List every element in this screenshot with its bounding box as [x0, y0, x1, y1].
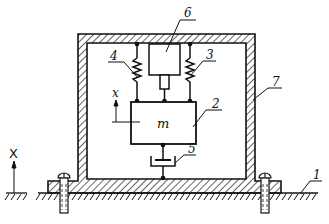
- relative-coordinate-label: x: [112, 86, 119, 100]
- label-2: 2: [211, 97, 220, 111]
- absolute-coordinate-label: X: [9, 146, 18, 161]
- vibration-sensor-diagram: m x X 6 4 3 2 7 5 1: [0, 0, 329, 224]
- label-6: 6: [184, 6, 192, 20]
- spring-left: [133, 42, 141, 102]
- ground: [5, 193, 318, 200]
- bolt-left: [58, 173, 70, 213]
- transducer: [149, 44, 180, 103]
- mass-symbol: m: [157, 116, 169, 131]
- label-5: 5: [188, 142, 196, 156]
- label-7: 7: [272, 75, 280, 89]
- damper: [151, 143, 175, 179]
- label-1: 1: [313, 168, 321, 182]
- bolt-right: [259, 173, 271, 213]
- label-3: 3: [206, 48, 214, 62]
- absolute-coordinate-axis: [12, 161, 16, 193]
- mass-block: m: [131, 102, 196, 144]
- label-4: 4: [109, 49, 118, 63]
